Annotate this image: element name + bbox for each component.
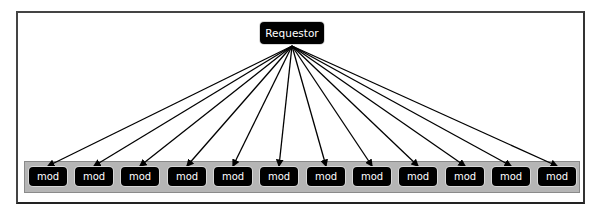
module-node: mod [446, 167, 484, 186]
module-node: mod [168, 167, 206, 186]
edge-arrow [48, 46, 292, 166]
module-node: mod [353, 167, 391, 186]
edge-arrow [292, 46, 418, 166]
module-label: mod [361, 171, 383, 182]
edge-arrow [187, 46, 292, 166]
module-label: mod [222, 171, 244, 182]
module-label: mod [83, 171, 105, 182]
module-label: mod [546, 171, 568, 182]
module-label: mod [454, 171, 476, 182]
module-label: mod [500, 171, 522, 182]
module-node: mod [260, 167, 298, 186]
module-label: mod [37, 171, 59, 182]
module-node: mod [29, 167, 67, 186]
module-node: mod [121, 167, 159, 186]
module-node: mod [75, 167, 113, 186]
requestor-label: Requestor [265, 27, 318, 39]
module-label: mod [176, 171, 198, 182]
edge-arrow [279, 46, 292, 166]
requestor-node: Requestor [260, 22, 324, 44]
module-node: mod [307, 167, 345, 186]
module-node: mod [214, 167, 252, 186]
edge-arrow [292, 46, 511, 166]
module-node: mod [492, 167, 530, 186]
module-node: mod [538, 167, 576, 186]
module-label: mod [268, 171, 290, 182]
module-label: mod [129, 171, 151, 182]
edge-arrow [292, 46, 465, 166]
module-node: mod [399, 167, 437, 186]
edge-arrow [140, 46, 292, 166]
module-label: mod [407, 171, 429, 182]
edge-arrow [292, 46, 326, 166]
module-label: mod [315, 171, 337, 182]
